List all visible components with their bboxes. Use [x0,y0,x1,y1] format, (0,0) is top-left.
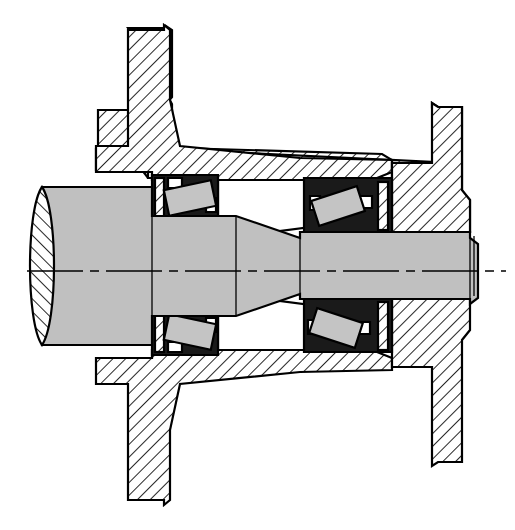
bearing-upper-right [304,178,392,232]
drawing-canvas [0,0,515,530]
bearing-upper-right-retainer [378,182,388,230]
bearing-lower-right-retainer [378,302,388,350]
bearing-lower-right [304,299,392,352]
shaft-broken-end-face [30,187,54,345]
sectional-assembly-drawing [0,0,515,530]
